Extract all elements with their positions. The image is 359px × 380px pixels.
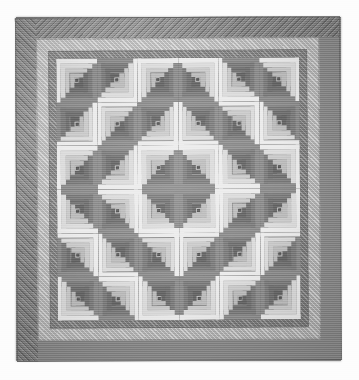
log-cabin-block	[178, 145, 219, 189]
log-cabin-block	[179, 232, 220, 276]
log-light-vertical	[205, 155, 210, 179]
block-center-square	[116, 122, 119, 125]
log-light-vertical	[206, 286, 211, 310]
log-dark-vertical	[88, 63, 93, 97]
block-center-square	[157, 166, 160, 169]
outer-border-right	[15, 18, 38, 362]
block-center-square	[156, 122, 159, 125]
log-cabin-block	[259, 145, 300, 189]
block-center-square	[197, 122, 200, 125]
block-center-square	[197, 166, 200, 169]
log-light-vertical	[291, 149, 296, 183]
log-light-vertical	[281, 72, 285, 87]
log-light-vertical	[209, 63, 214, 97]
log-light-vertical	[89, 238, 94, 272]
log-light-vertical	[201, 203, 205, 218]
block-center-square	[238, 165, 241, 168]
log-light-horizontal	[223, 92, 255, 97]
log-cabin-block	[259, 57, 300, 101]
log-cabin-block	[179, 276, 220, 320]
log-light-vertical	[125, 199, 130, 223]
log-cabin-block	[179, 189, 220, 233]
log-light-vertical	[210, 150, 215, 184]
log-cabin-block	[138, 145, 179, 189]
log-dark-vertical	[129, 107, 134, 141]
log-light-vertical	[124, 68, 129, 92]
block-center-square	[279, 296, 282, 299]
block-center-square	[117, 297, 120, 300]
outer-border-bottom	[15, 16, 340, 39]
log-cabin-block	[219, 189, 260, 233]
log-cabin-block	[138, 189, 179, 233]
log-light-vertical	[251, 237, 256, 271]
log-dark-vertical	[169, 63, 174, 97]
log-dark-vertical	[251, 281, 256, 315]
log-light-horizontal	[179, 315, 220, 320]
block-center-square	[198, 209, 201, 212]
log-cabin-block	[218, 101, 259, 145]
log-cabin-block	[178, 101, 219, 145]
log-light-vertical	[242, 247, 246, 262]
log-light-vertical	[128, 63, 133, 97]
block-center-square	[77, 297, 80, 300]
block-center-square	[198, 297, 201, 300]
log-cabin-block	[97, 102, 138, 146]
log-dark-vertical	[296, 232, 301, 276]
block-center-square	[76, 254, 79, 257]
block-center-square	[238, 253, 241, 256]
block-center-square	[116, 79, 119, 82]
log-light-vertical	[206, 198, 211, 222]
log-light-vertical	[246, 242, 251, 266]
log-light-vertical	[282, 203, 286, 218]
block-center-square	[75, 79, 78, 82]
block-center-square	[198, 253, 201, 256]
log-light-vertical	[129, 194, 134, 228]
log-cabin-block	[57, 233, 98, 277]
log-light-vertical	[205, 67, 210, 91]
log-light-vertical	[292, 280, 297, 314]
block-field	[56, 57, 301, 320]
block-center-square	[157, 209, 160, 212]
log-cabin-block	[98, 277, 139, 321]
log-dark-vertical	[251, 193, 256, 227]
log-cabin-block	[97, 58, 138, 102]
log-light-vertical	[170, 238, 175, 272]
log-cabin-block	[260, 276, 301, 320]
log-light-vertical	[282, 159, 286, 174]
block-center-square	[279, 252, 282, 255]
log-light-vertical	[84, 112, 89, 136]
log-light-vertical	[84, 243, 89, 267]
log-light-horizontal	[139, 315, 180, 320]
log-light-vertical	[287, 198, 292, 222]
log-light-vertical	[124, 155, 129, 179]
photo-caption	[12, 367, 112, 374]
block-center-square	[157, 253, 160, 256]
log-light-vertical	[295, 57, 300, 101]
block-center-square	[117, 210, 120, 213]
block-center-square	[76, 210, 79, 213]
log-light-vertical	[286, 154, 291, 178]
log-dark-horizontal	[220, 315, 261, 320]
log-light-horizontal	[183, 136, 215, 141]
log-cabin-block	[98, 233, 139, 277]
log-cabin-block	[137, 102, 178, 146]
block-center-square	[197, 78, 200, 81]
log-cabin-block	[259, 188, 300, 232]
log-cabin-block	[260, 232, 301, 276]
quilt-photograph	[0, 0, 359, 380]
log-light-vertical	[160, 116, 164, 131]
log-light-vertical	[88, 107, 93, 141]
log-light-vertical	[161, 247, 165, 262]
log-light-vertical	[296, 188, 301, 232]
log-light-vertical	[211, 281, 216, 315]
log-cabin-block	[98, 189, 139, 233]
log-light-vertical	[79, 117, 83, 132]
log-dark-vertical	[210, 237, 215, 271]
log-light-vertical	[286, 67, 291, 91]
log-cabin-block	[259, 101, 300, 145]
log-dark-vertical	[295, 101, 300, 145]
log-light-vertical	[241, 116, 245, 131]
log-cabin-block	[138, 233, 179, 277]
block-center-square	[76, 166, 79, 169]
log-light-vertical	[210, 194, 215, 228]
